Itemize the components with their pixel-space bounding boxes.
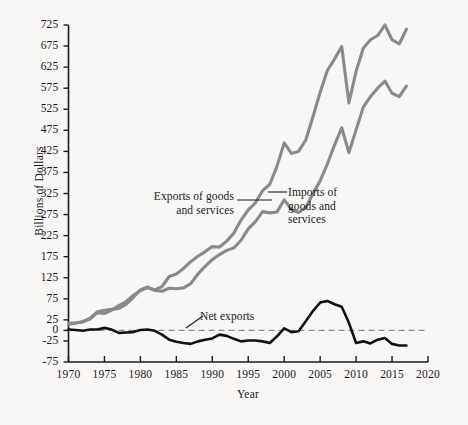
x-tick-label-1995: 1995 — [228, 369, 268, 381]
x-axis-ticks — [69, 356, 429, 362]
y-tick-label-25: 25 — [19, 314, 59, 326]
x-tick-label-1985: 1985 — [156, 369, 196, 381]
x-tick-label-2000: 2000 — [264, 369, 304, 381]
y-tick-label-125: 125 — [19, 272, 59, 284]
x-tick-label-1970: 1970 — [49, 369, 89, 381]
x-tick-label-2015: 2015 — [372, 369, 412, 381]
y-tick-label-675: 675 — [19, 40, 59, 52]
annotation-net-exports: Net exports — [200, 310, 276, 324]
x-tick-label-1990: 1990 — [192, 369, 232, 381]
x-tick-label-1975: 1975 — [84, 369, 124, 381]
annotation-exports-line2: and services — [118, 204, 234, 218]
y-tick-label-0: 0 — [19, 324, 59, 336]
y-tick-label-75: 75 — [19, 293, 59, 305]
y-axis-title: Billions of Dollars — [33, 121, 45, 261]
y-tick-label-525: 525 — [19, 103, 59, 115]
annotation-exports-line1: Exports of goods — [118, 190, 234, 204]
annotation-imports-line1: Imports of — [288, 186, 372, 200]
series-line-imports — [69, 25, 407, 324]
x-tick-label-2005: 2005 — [300, 369, 340, 381]
y-tick-label--75: -75 — [19, 356, 59, 368]
chart-plot-area — [0, 0, 468, 425]
y-tick-label--25: -25 — [19, 335, 59, 347]
y-tick-label-725: 725 — [19, 19, 59, 31]
x-tick-label-2010: 2010 — [336, 369, 376, 381]
y-tick-label-575: 575 — [19, 82, 59, 94]
x-tick-label-1980: 1980 — [120, 369, 160, 381]
annotation-imports: Imports of goods and services — [288, 186, 372, 227]
annotation-imports-line2: goods and — [288, 200, 372, 214]
annotation-imports-line3: services — [288, 213, 372, 227]
x-axis-title: Year — [208, 388, 288, 400]
y-tick-label-625: 625 — [19, 61, 59, 73]
annotation-exports: Exports of goods and services — [118, 190, 234, 217]
chart-figure: -75-250257512517522527532537542547552557… — [0, 0, 468, 425]
x-tick-label-2020: 2020 — [408, 369, 448, 381]
